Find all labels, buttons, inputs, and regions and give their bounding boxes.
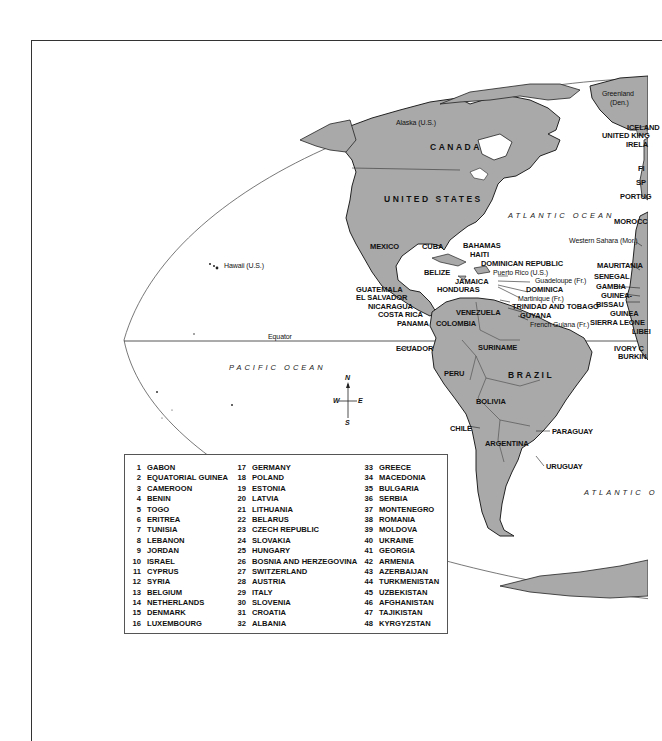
legend-country-name: LUXEMBOURG bbox=[147, 619, 202, 629]
legend-country-name: ROMANIA bbox=[379, 515, 415, 525]
argentina-label: ARGENTINA bbox=[485, 440, 529, 448]
legend-number: 34 bbox=[357, 473, 373, 483]
legend-number: 39 bbox=[357, 525, 373, 535]
atlantic-ocean-north-label: ATLANTIC OCEAN bbox=[508, 212, 614, 220]
legend-row: 32ALBANIA bbox=[230, 619, 357, 629]
legend-country-name: MOLDOVA bbox=[379, 525, 417, 535]
legend-row: 20LATVIA bbox=[230, 494, 357, 504]
costa-rica-label: COSTA RICA bbox=[378, 311, 423, 319]
compass-n: N bbox=[345, 374, 350, 381]
legend-row: 6ERITREA bbox=[125, 515, 228, 525]
guadeloupe-label: Guadeloupe (Fr.) bbox=[535, 277, 586, 284]
legend-number: 25 bbox=[230, 546, 246, 556]
hawaii-islands bbox=[209, 263, 218, 269]
legend-number: 13 bbox=[125, 588, 141, 598]
compass-w: W bbox=[333, 397, 340, 404]
legend-number: 28 bbox=[230, 577, 246, 587]
legend-country-name: AFGHANISTAN bbox=[379, 598, 434, 608]
legend-row: 5TOGO bbox=[125, 505, 228, 515]
legend-number: 27 bbox=[230, 567, 246, 577]
legend-number: 29 bbox=[230, 588, 246, 598]
compass-e: E bbox=[358, 397, 363, 404]
legend-country-name: GERMANY bbox=[252, 463, 291, 473]
legend-number: 36 bbox=[357, 494, 373, 504]
legend-number: 11 bbox=[125, 567, 141, 577]
legend-country-name: CAMEROON bbox=[147, 484, 192, 494]
cuba-landmass bbox=[432, 254, 466, 266]
united-kingdom-label: UNITED KING bbox=[602, 132, 650, 140]
legend-country-name: CZECH REPUBLIC bbox=[252, 525, 319, 535]
mauritania-label: MAURITANIA bbox=[597, 262, 643, 270]
legend-row: 34MACEDONIA bbox=[357, 473, 439, 483]
legend-row: 33GREECE bbox=[357, 463, 439, 473]
legend-number: 14 bbox=[125, 598, 141, 608]
legend-row: 47TAJIKISTAN bbox=[357, 608, 439, 618]
legend-row: 3CAMEROON bbox=[125, 484, 228, 494]
legend-number: 16 bbox=[125, 619, 141, 629]
venezuela-label: VENEZUELA bbox=[456, 309, 501, 317]
portugal-label: PORTUG bbox=[620, 193, 651, 201]
legend-number: 44 bbox=[357, 577, 373, 587]
legend-country-name: LATVIA bbox=[252, 494, 279, 504]
legend-country-name: SERBIA bbox=[379, 494, 408, 504]
north-america-landmass bbox=[340, 96, 560, 316]
legend-number: 33 bbox=[357, 463, 373, 473]
france-label: FI bbox=[638, 165, 644, 173]
martinique-label: Martinique (Fr.) bbox=[518, 295, 564, 302]
legend-number: 31 bbox=[230, 608, 246, 618]
country-number-legend: 1GABON2EQUATORIAL GUINEA3CAMEROON4BENIN5… bbox=[124, 454, 448, 634]
legend-number: 6 bbox=[125, 515, 141, 525]
africa-landmass bbox=[626, 212, 648, 360]
guinea-label: GUINEA bbox=[610, 310, 639, 318]
legend-row: 1GABON bbox=[125, 463, 228, 473]
legend-row: 46AFGHANISTAN bbox=[357, 598, 439, 608]
legend-number: 9 bbox=[125, 546, 141, 556]
legend-row: 2EQUATORIAL GUINEA bbox=[125, 473, 228, 483]
legend-row: 27SWITZERLAND bbox=[230, 567, 357, 577]
alaska-landmass bbox=[300, 120, 356, 152]
guinea-bissau-label-2: BISSAU bbox=[596, 301, 624, 309]
legend-number: 46 bbox=[357, 598, 373, 608]
legend-number: 43 bbox=[357, 567, 373, 577]
legend-number: 12 bbox=[125, 577, 141, 587]
trinidad-label: TRINIDAD AND TOBAGO bbox=[512, 303, 599, 311]
legend-number: 26 bbox=[230, 557, 246, 567]
puerto-rico-label: Puerto Rico (U.S.) bbox=[493, 269, 548, 276]
legend-row: 26BOSNIA AND HERZEGOVINA bbox=[230, 557, 357, 567]
legend-number: 22 bbox=[230, 515, 246, 525]
guinea-bissau-label-1: GUINEA- bbox=[601, 292, 632, 300]
legend-row: 24SLOVAKIA bbox=[230, 536, 357, 546]
legend-number: 1 bbox=[125, 463, 141, 473]
legend-country-name: ARMENIA bbox=[379, 557, 414, 567]
united-states-label: UNITED STATES bbox=[384, 195, 483, 204]
legend-row: 42ARMENIA bbox=[357, 557, 439, 567]
pacific-ocean-label: PACIFIC OCEAN bbox=[229, 364, 326, 372]
legend-row: 39MOLDOVA bbox=[357, 525, 439, 535]
legend-country-name: TURKMENISTAN bbox=[379, 577, 439, 587]
legend-number: 42 bbox=[357, 557, 373, 567]
legend-number: 30 bbox=[230, 598, 246, 608]
gambia-label: GAMBIA bbox=[596, 283, 626, 291]
legend-country-name: ALBANIA bbox=[252, 619, 286, 629]
legend-country-name: GEORGIA bbox=[379, 546, 415, 556]
legend-column-3: 33GREECE34MACEDONIA35BULGARIA36SERBIA37M… bbox=[357, 463, 439, 629]
dominica-label: DOMINICA bbox=[526, 286, 563, 294]
legend-row: 21LITHUANIA bbox=[230, 505, 357, 515]
compass-rose: N W E S bbox=[333, 374, 363, 428]
legend-number: 24 bbox=[230, 536, 246, 546]
legend-country-name: AZERBAIJAN bbox=[379, 567, 428, 577]
legend-country-name: DENMARK bbox=[147, 608, 186, 618]
atlantic-ocean-south-label: ATLANTIC O bbox=[584, 489, 658, 497]
panama-label: PANAMA bbox=[397, 320, 429, 328]
western-sahara-label: Western Sahara (Mor.) bbox=[569, 237, 638, 244]
legend-row: 41GEORGIA bbox=[357, 546, 439, 556]
legend-country-name: AUSTRIA bbox=[252, 577, 286, 587]
cuba-label: CUBA bbox=[422, 243, 443, 251]
legend-row: 8LEBANON bbox=[125, 536, 228, 546]
legend-country-name: BELGIUM bbox=[147, 588, 182, 598]
legend-row: 19ESTONIA bbox=[230, 484, 357, 494]
sierra-leone-label: SIERRA LEONE bbox=[590, 319, 645, 327]
south-america-landmass bbox=[430, 298, 592, 536]
belize-label: BELIZE bbox=[424, 269, 450, 277]
legend-country-name: SLOVENIA bbox=[252, 598, 291, 608]
